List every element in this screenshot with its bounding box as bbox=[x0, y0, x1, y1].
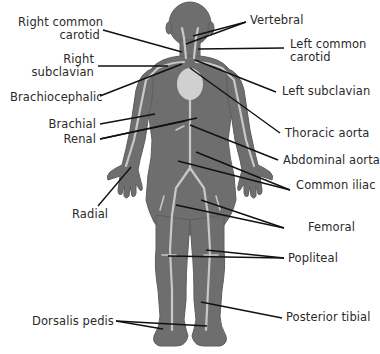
label-left-common-carotid: Left common carotid bbox=[290, 38, 366, 64]
label-left-subclavian: Left subclavian bbox=[282, 85, 370, 98]
label-posterior-tibial: Posterior tibial bbox=[286, 311, 371, 324]
label-right-subclavian: Right subclavian bbox=[18, 53, 94, 79]
label-dorsalis-pedis: Dorsalis pedis bbox=[32, 315, 114, 328]
label-text: carotid bbox=[18, 29, 100, 42]
label-abdominal-aorta: Abdominal aorta bbox=[283, 154, 380, 167]
label-popliteal: Popliteal bbox=[288, 252, 338, 265]
label-right-common-carotid: Right common carotid bbox=[18, 16, 100, 42]
label-renal: Renal bbox=[30, 133, 96, 146]
body-silhouette bbox=[107, 2, 272, 346]
label-brachial: Brachial bbox=[30, 118, 96, 131]
label-common-iliac: Common iliac bbox=[296, 179, 376, 192]
label-vertebral: Vertebral bbox=[250, 14, 304, 27]
heart-shape bbox=[177, 68, 203, 100]
label-text: subclavian bbox=[18, 66, 94, 79]
label-text: carotid bbox=[290, 51, 366, 64]
label-radial: Radial bbox=[72, 208, 108, 221]
label-thoracic-aorta: Thoracic aorta bbox=[285, 127, 369, 140]
label-femoral: Femoral bbox=[308, 221, 355, 234]
label-brachiocephalic: Brachiocephalic bbox=[10, 91, 103, 104]
